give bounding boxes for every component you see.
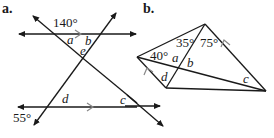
angle-140-label: 140° [53,15,78,30]
angle-55-label: 55° [13,110,31,125]
figure-b: b. 40° 35° 75° a b d c [137,1,266,91]
figure-a: a. 140° a b e d c 55° [2,1,137,125]
var-c-label-b: c [243,71,249,86]
figure-b-label: b. [143,1,154,16]
var-d-label: d [62,91,69,106]
parallel-marker-left-icon [144,68,153,75]
transversal-ascending-lower [34,58,83,125]
var-b-label: b [85,33,92,48]
var-a-label-b: a [172,50,179,65]
arrow-fragment [125,95,163,126]
side-bottom [166,88,266,91]
angle-75-label: 75° [200,35,218,50]
angle-35-label: 35° [176,35,194,50]
var-a-label: a [67,32,74,47]
geometry-diagram: a. 140° a b e d c 55° b. 40° 35° [0,0,274,138]
var-c-label: c [120,92,126,107]
var-d-label-b: d [161,69,168,84]
figure-a-label: a. [2,1,13,16]
var-b-label-b: b [187,55,194,70]
var-e-label: e [80,43,86,58]
angle-40-label: 40° [150,48,168,63]
